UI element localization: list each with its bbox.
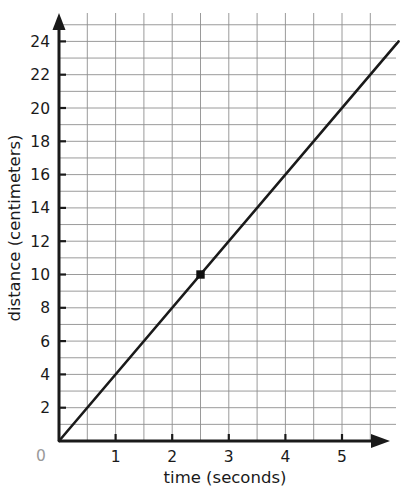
- y-axis-tick-label: 6: [40, 333, 50, 351]
- x-axis-tick-label: 4: [280, 448, 290, 466]
- y-axis-tick-label: 18: [30, 133, 50, 151]
- y-axis-tick-label: 16: [30, 166, 50, 184]
- y-axis-tick-label: 12: [30, 233, 50, 251]
- x-axis-title: time (seconds): [164, 468, 287, 487]
- x-axis-tick-label: 2: [167, 448, 177, 466]
- y-axis-tick-label: 22: [30, 66, 50, 84]
- y-axis-tick-label: 10: [30, 266, 50, 284]
- distance-time-graph: 24681012141618202224 12345 0 time (secon…: [0, 0, 400, 493]
- x-axis-tick-label: 1: [111, 448, 121, 466]
- y-axis-title: distance (centimeters): [5, 135, 24, 322]
- y-axis-tick-label: 8: [40, 299, 50, 317]
- data-point-marker: [196, 270, 204, 278]
- y-axis-tick-label: 20: [30, 100, 50, 118]
- y-axis-tick-label: 24: [30, 33, 50, 51]
- origin-zero-label: 0: [36, 447, 46, 465]
- y-axis-tick-label: 14: [30, 199, 50, 217]
- x-axis-tick-label: 3: [224, 448, 234, 466]
- y-axis-tick-label: 4: [40, 366, 50, 384]
- chart-canvas: 24681012141618202224 12345 0 time (secon…: [0, 0, 400, 493]
- y-axis-tick-label: 2: [40, 399, 50, 417]
- x-axis-tick-label: 5: [337, 448, 347, 466]
- data-points: [196, 270, 204, 278]
